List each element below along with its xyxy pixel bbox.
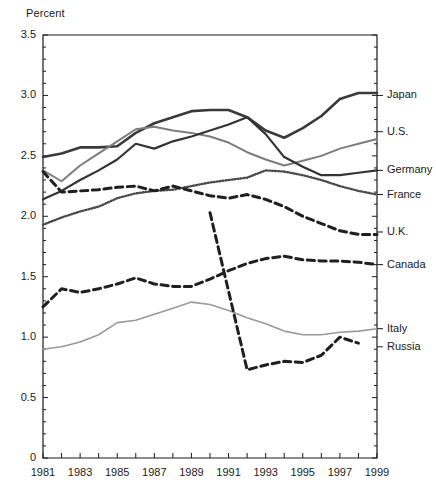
series-label-japan: Japan [387, 88, 417, 100]
y-axis-tick-label: 2.0 [6, 209, 36, 221]
y-axis-tick-label: 3.0 [6, 88, 36, 100]
series-label-russia: Russia [387, 340, 421, 352]
y-axis-tick-label: 0.5 [6, 391, 36, 403]
series-label-italy: Italy [387, 322, 407, 334]
series-label-uk: U.K. [387, 225, 408, 237]
plot-frame [43, 35, 377, 458]
x-axis-tick-label: 1995 [283, 466, 323, 478]
series-line-germany [43, 117, 377, 199]
series-line-japan [43, 93, 377, 157]
x-axis-tick-label: 1981 [23, 466, 63, 478]
y-axis-tick-label: 1.5 [6, 270, 36, 282]
series-label-us: U.S. [387, 125, 408, 137]
x-axis-tick-label: 1989 [171, 466, 211, 478]
y-axis-tick-label: 1.0 [6, 330, 36, 342]
x-axis-tick-label: 1999 [357, 466, 397, 478]
y-axis-tick-label: 3.5 [6, 28, 36, 40]
x-axis-tick-label: 1991 [209, 466, 249, 478]
x-axis-tick-label: 1983 [60, 466, 100, 478]
x-axis-tick-label: 1987 [134, 466, 174, 478]
plot-area [0, 0, 436, 494]
series-label-france: France [387, 188, 421, 200]
line-chart: Percent 00.51.01.52.02.53.03.51981198319… [0, 0, 436, 494]
series-line-italy [43, 302, 377, 349]
series-line-canada [43, 256, 377, 307]
y-axis-tick-label: 0 [6, 451, 36, 463]
series-line-russia [210, 213, 358, 370]
x-axis-tick-label: 1993 [246, 466, 286, 478]
x-axis-tick-label: 1997 [320, 466, 360, 478]
series-label-canada: Canada [387, 258, 426, 270]
x-axis-tick-label: 1985 [97, 466, 137, 478]
series-label-germany: Germany [387, 163, 432, 175]
y-axis-tick-label: 2.5 [6, 149, 36, 161]
series-line-uk [43, 172, 377, 235]
